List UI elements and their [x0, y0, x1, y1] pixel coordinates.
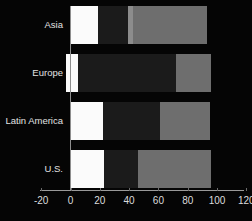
x-tick-mark: [100, 188, 101, 191]
x-tick-mark: [188, 188, 189, 191]
category-label: Asia: [0, 6, 63, 44]
category-label: Europe: [0, 54, 63, 92]
bar-segment-gray: [160, 102, 210, 140]
x-tick-label: 120: [226, 195, 252, 206]
bar-segment-dark: [78, 54, 176, 92]
x-tick-mark: [129, 188, 130, 191]
bar-row: Asia: [0, 6, 252, 44]
bar-segment-gray: [138, 150, 211, 188]
zero-axis-line: [70, 6, 71, 191]
bar-segment-white: [71, 6, 99, 44]
x-tick-mark: [158, 188, 159, 191]
bar-segment-white: [71, 102, 103, 140]
plot-area: AsiaEuropeLatin AmericaU.S. -20020406080…: [0, 0, 252, 221]
category-label: U.S.: [0, 150, 63, 188]
bar-segment-white: [66, 54, 78, 92]
bar-segment-dark: [98, 6, 127, 44]
bar-segment-gray: [133, 6, 206, 44]
chart-container: AsiaEuropeLatin AmericaU.S. -20020406080…: [0, 0, 252, 221]
bar-segment-white: [71, 150, 105, 188]
x-tick-mark: [217, 188, 218, 191]
x-tick-mark: [71, 188, 72, 191]
bar-row: U.S.: [0, 150, 252, 188]
bar-segment-gray: [176, 54, 211, 92]
bar-segment-dark: [104, 150, 138, 188]
x-tick-mark: [41, 188, 42, 191]
x-tick-mark: [246, 188, 247, 191]
bar-row: Latin America: [0, 102, 252, 140]
x-axis-tick-labels: -20020406080100120: [0, 195, 252, 215]
bar-segment-dark: [103, 102, 160, 140]
category-label: Latin America: [0, 102, 63, 140]
bar-row: Europe: [0, 54, 252, 92]
